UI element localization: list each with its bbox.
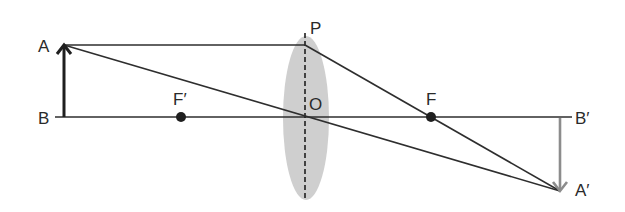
label-F-prime: F′ [173, 90, 187, 109]
convex-lens [283, 36, 329, 200]
lens-ray-diagram: A B P O F′ F B′ A′ [0, 0, 625, 212]
focal-point-F-prime [176, 112, 186, 122]
label-B-prime: B′ [575, 109, 590, 128]
object-arrow-AB [57, 45, 71, 117]
label-P: P [310, 19, 321, 38]
image-arrow-B-prime-A-prime [553, 118, 567, 191]
label-A: A [38, 37, 50, 56]
label-O: O [309, 95, 322, 114]
label-A-prime: A′ [575, 181, 590, 200]
label-F: F [426, 90, 436, 109]
focal-point-F [426, 112, 436, 122]
label-B: B [38, 109, 49, 128]
